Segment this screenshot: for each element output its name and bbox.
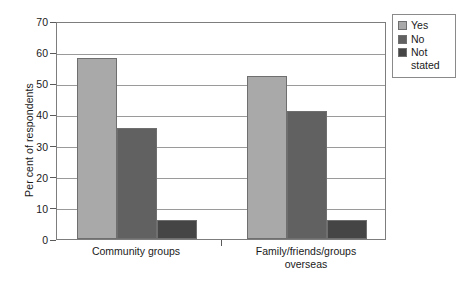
gridline-60 (57, 54, 385, 55)
legend-swatch-icon (398, 48, 407, 57)
legend-item-no[interactable]: No (398, 33, 451, 46)
y-tick-label-10: 10 (8, 203, 48, 215)
bar-no-group-1 (117, 128, 157, 239)
legend-item-not-stated[interactable]: Notstated (398, 46, 451, 71)
x-axis-category-label-line: Community groups (76, 245, 196, 258)
x-axis-category-label-family-friends-groups-overseas: Family/friends/groupsoverseas (240, 245, 372, 271)
legend-item-label-line: Yes (411, 19, 428, 32)
y-tick-label-40: 40 (8, 109, 48, 121)
category-separator-tick (221, 240, 222, 246)
legend-item-label-line: No (411, 33, 424, 46)
legend-swatch-icon (398, 35, 407, 44)
bar-chart: Per cent of respondents 010203040506070 … (0, 0, 467, 284)
y-tick-label-50: 50 (8, 78, 48, 90)
bar-yes-group-2 (247, 76, 287, 240)
y-tick-label-70: 70 (8, 16, 48, 28)
bar-not-stated-group-1 (157, 220, 197, 239)
legend-item-yes[interactable]: Yes (398, 19, 451, 32)
legend-item-label: Notstated (411, 46, 440, 71)
bar-not-stated-group-2 (327, 220, 367, 239)
bar-yes-group-1 (77, 58, 117, 239)
y-tick-label-60: 60 (8, 47, 48, 59)
legend-item-label: Yes (411, 19, 428, 32)
plot-area (56, 22, 386, 240)
x-axis-category-label-community-groups: Community groups (76, 245, 196, 258)
legend-item-label-line: Not (411, 46, 440, 59)
bar-no-group-2 (287, 111, 327, 239)
legend-item-label-line: stated (411, 59, 440, 72)
x-axis-category-label-line: overseas (240, 258, 372, 271)
x-axis-category-label-line: Family/friends/groups (240, 245, 372, 258)
y-tick-label-30: 30 (8, 141, 48, 153)
legend: YesNoNotstated (392, 14, 456, 78)
legend-swatch-icon (398, 21, 407, 30)
y-tick-label-20: 20 (8, 172, 48, 184)
legend-item-label: No (411, 33, 424, 46)
y-tick-label-0: 0 (8, 234, 48, 246)
